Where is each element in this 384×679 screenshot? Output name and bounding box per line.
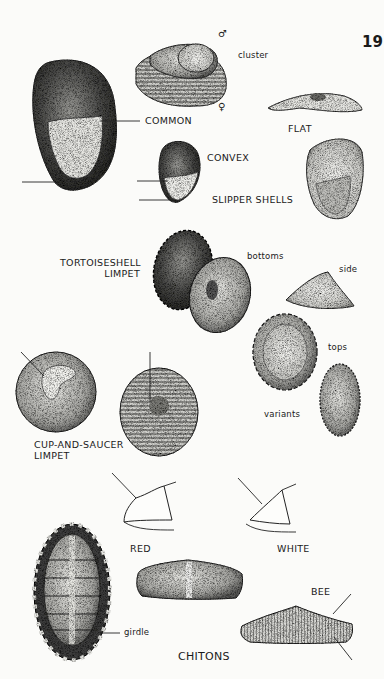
bee-leader-line	[333, 594, 351, 614]
flat-slipper-shell-illustration	[268, 93, 362, 112]
common-slipper-shell-illustration	[33, 60, 117, 190]
label-flat: FLAT	[288, 124, 312, 135]
convex-slipper-shell-illustration	[159, 141, 200, 202]
label-variants: variants	[264, 410, 300, 420]
tortoiseshell-limpet-side-illustration	[286, 272, 354, 308]
label-side: side	[339, 265, 357, 275]
label-tops: tops	[328, 343, 347, 353]
section-title-tortoiseshell-limpet: TORTOISESHELL LIMPET	[60, 258, 140, 280]
red-chiton-valve-illustration	[112, 473, 176, 530]
label-bottoms: bottoms	[247, 252, 284, 262]
title-line-2: LIMPET	[34, 451, 124, 462]
label-girdle: girdle	[124, 628, 149, 638]
label-red: RED	[130, 544, 151, 555]
cup-and-saucer-limpet-top-illustration	[120, 368, 198, 456]
section-title-cup-and-saucer-limpet: CUP-AND-SAUCER LIMPET	[34, 440, 124, 462]
flat-slipper-shell-bottom-illustration	[307, 139, 364, 219]
section-title-slipper-shells: SLIPPER SHELLS	[212, 195, 293, 206]
tortoiseshell-limpet-variant-illustration	[320, 364, 360, 436]
chiton-top-view-illustration	[34, 524, 110, 660]
male-symbol: ♂	[218, 28, 227, 39]
label-convex: CONVEX	[207, 153, 249, 164]
title-line-2: LIMPET	[60, 269, 140, 280]
tortoiseshell-limpet-top-illustration	[253, 314, 317, 390]
white-chiton-valve-illustration	[238, 478, 296, 532]
field-guide-plate: 19 ♂ cluster ♀ COMMON FLAT CONVEX SLIPPE…	[0, 0, 384, 679]
label-white: WHITE	[277, 544, 310, 555]
red-chiton-side-illustration	[137, 560, 243, 599]
cup-and-saucer-limpet-illustration	[16, 352, 96, 432]
page-number: 19	[362, 33, 383, 51]
female-symbol: ♀	[218, 101, 225, 112]
label-common: COMMON	[145, 116, 192, 127]
section-title-chitons: CHITONS	[178, 651, 230, 664]
bee-chiton-illustration	[241, 606, 353, 644]
label-bee: BEE	[311, 587, 330, 598]
label-cluster: cluster	[238, 51, 268, 61]
cluster-slipper-shells-illustration	[136, 44, 226, 106]
illustrations	[0, 0, 384, 679]
